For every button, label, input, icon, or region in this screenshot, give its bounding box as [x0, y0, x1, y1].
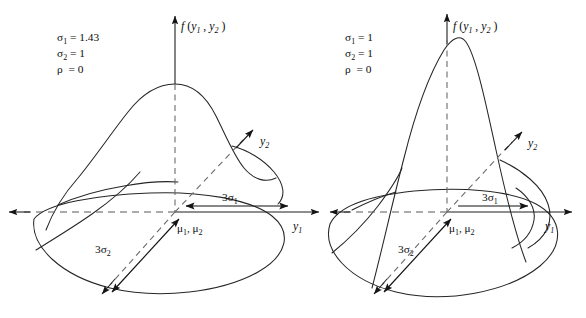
- bivariate-normal-figure: σ1 = 1.43 σ2 = 1 ρ = 0 f (y1 , y2 ) y2 y…: [0, 0, 586, 318]
- left-density-axis-label: f (y1 , y2 ): [181, 19, 225, 35]
- right-rho-param: ρ = 0: [345, 63, 372, 75]
- right-density-axis-label: f (y1 , y2 ): [453, 19, 497, 35]
- left-rho-param: ρ = 0: [57, 63, 84, 75]
